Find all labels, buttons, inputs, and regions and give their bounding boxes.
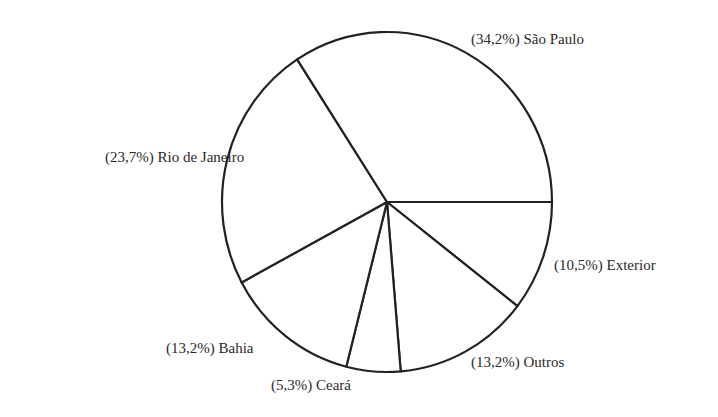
label-exterior: (10,5%) Exterior (554, 257, 656, 274)
pie-chart (0, 0, 718, 417)
pie-slices (222, 32, 552, 372)
label-outros: (13,2%) Outros (471, 354, 564, 371)
label-sao-paulo: (34,2%) São Paulo (471, 31, 584, 48)
label-ceara: (5,3%) Ceará (271, 377, 351, 394)
label-bahia: (13,2%) Bahia (166, 340, 253, 357)
label-rio-de-janeiro: (23,7%) Rio de Janeiro (105, 149, 244, 166)
